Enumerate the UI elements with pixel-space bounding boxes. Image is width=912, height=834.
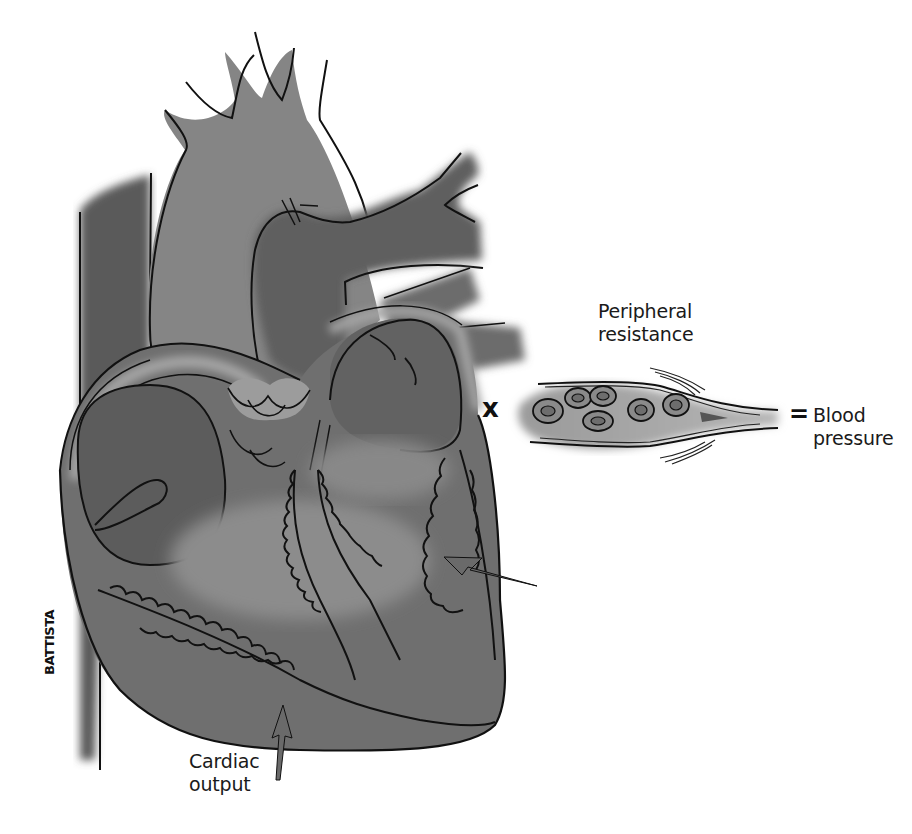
multiply-symbol: x	[482, 393, 499, 423]
cardiac-output-line2: output	[189, 773, 259, 796]
blood-pressure-line2: pressure	[813, 427, 893, 450]
left-atrium	[330, 318, 462, 452]
peripheral-label-line2: resistance	[598, 323, 693, 346]
equals-symbol: =	[789, 400, 809, 428]
blood-pressure-label: Blood pressure	[813, 404, 893, 450]
artist-signature: BATTISTA	[42, 610, 57, 675]
peripheral-label-line1: Peripheral	[598, 300, 693, 323]
heart-illustration	[0, 0, 912, 834]
heart-diagram: Peripheral resistance x = Blood pressure…	[0, 0, 912, 834]
peripheral-resistance-label: Peripheral resistance	[598, 300, 693, 346]
blood-pressure-line1: Blood	[813, 404, 893, 427]
cardiac-output-line1: Cardiac	[189, 750, 259, 773]
cardiac-output-label: Cardiac output	[189, 750, 259, 796]
